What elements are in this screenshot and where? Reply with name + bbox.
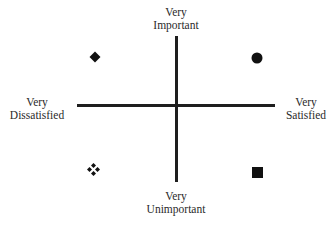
label-line: Important — [141, 19, 211, 32]
label-line: Very — [278, 96, 334, 109]
label-line: Dissatisfied — [4, 109, 70, 122]
label-very-important: Very Important — [141, 6, 211, 32]
diamond-icon — [89, 51, 101, 63]
circle-icon — [251, 52, 263, 64]
label-very-satisfied: Very Satisfied — [278, 96, 334, 122]
horizontal-axis — [77, 104, 275, 107]
label-line: Satisfied — [278, 109, 334, 122]
label-very-dissatisfied: Very Dissatisfied — [4, 96, 70, 122]
label-line: Unimportant — [131, 203, 221, 216]
label-line: Very — [141, 6, 211, 19]
label-line: Very — [131, 190, 221, 203]
vertical-axis — [175, 36, 178, 182]
label-very-unimportant: Very Unimportant — [131, 190, 221, 216]
four-diamonds-icon — [87, 163, 100, 176]
label-line: Very — [4, 96, 70, 109]
square-icon — [252, 167, 263, 178]
